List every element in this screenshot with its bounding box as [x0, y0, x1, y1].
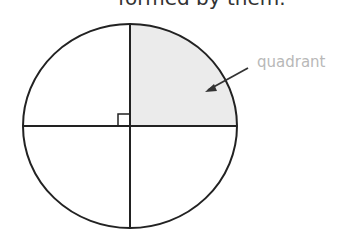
highlighted-quadrant	[130, 24, 237, 126]
circle-quadrant-diagram: quadrant	[0, 0, 354, 239]
right-angle-marker	[118, 114, 130, 126]
quadrant-label: quadrant	[257, 53, 326, 71]
